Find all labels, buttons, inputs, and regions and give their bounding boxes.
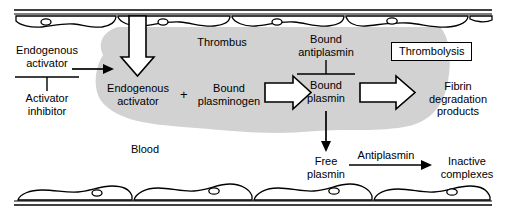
label-bound-plasmin: Bound plasmin [296,79,356,104]
label-endogenous-activator-external-line2: activator [8,57,86,70]
label-thrombus: Thrombus [193,36,251,49]
inhibition-t-bar-activator-inhibitor [15,77,79,91]
endothelial-cell-layer-bottom [18,184,490,200]
label-plus-sign: + [180,87,188,102]
label-inactive-complexes-line1: Inactive [432,155,502,168]
label-fibrin-degradation-products-line2: degradation [416,93,500,106]
label-thrombolysis-box: Thrombolysis [391,42,472,61]
label-fibrin-degradation-products: Fibrin degradation products [416,80,500,118]
label-activator-inhibitor: Activator inhibitor [8,92,86,117]
label-bound-plasminogen-line1: Bound [192,82,266,95]
label-endogenous-activator-bound-line2: activator [99,95,177,108]
label-endogenous-activator-bound: Endogenous activator [99,82,177,107]
thin-right-arrow-antiplasmin [349,160,432,170]
label-bound-plasminogen-line2: plasminogen [192,95,266,108]
label-inactive-complexes: Inactive complexes [432,155,502,180]
label-antiplasmin: Antiplasmin [352,149,420,162]
label-bound-antiplasmin-line1: Bound [288,33,364,46]
label-bound-antiplasmin-line2: antiplasmin [288,46,364,59]
label-endogenous-activator-external-line1: Endogenous [8,44,86,57]
fibrinolysis-diagram: Thrombus Endogenous activator Activator … [0,0,506,216]
label-bound-plasmin-line2: plasmin [296,92,356,105]
label-fibrin-degradation-products-line1: Fibrin [416,80,500,93]
label-bound-antiplasmin: Bound antiplasmin [288,33,364,58]
label-free-plasmin-line2: plasmin [297,168,355,181]
label-free-plasmin-line1: Free [297,155,355,168]
label-activator-inhibitor-line2: inhibitor [8,105,86,118]
label-bound-plasmin-line1: Bound [296,79,356,92]
endothelial-cell-layer-top [16,16,492,27]
label-endogenous-activator-external: Endogenous activator [8,44,86,69]
label-bound-plasminogen: Bound plasminogen [192,82,266,107]
label-blood: Blood [119,143,171,156]
label-endogenous-activator-bound-line1: Endogenous [99,82,177,95]
label-fibrin-degradation-products-line3: products [416,105,500,118]
label-inactive-complexes-line2: complexes [432,168,502,181]
label-activator-inhibitor-line1: Activator [8,92,86,105]
label-free-plasmin: Free plasmin [297,155,355,180]
